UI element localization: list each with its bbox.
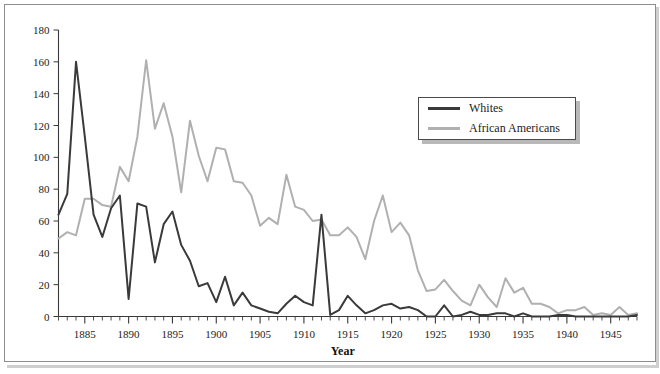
y-tick-label: 120 — [33, 120, 50, 132]
x-tick-label: 1915 — [337, 328, 360, 340]
x-tick-label: 1920 — [381, 328, 404, 340]
x-tick-label: 1930 — [468, 328, 491, 340]
lynching-statistics-line-chart: 0204060801001201401601801885189018951900… — [0, 0, 660, 374]
y-tick-label: 60 — [39, 215, 51, 227]
y-tick-label: 80 — [39, 183, 51, 195]
legend-item-whites: Whites — [419, 98, 575, 118]
y-tick-label: 180 — [33, 24, 50, 36]
y-tick-label: 40 — [39, 247, 51, 259]
x-tick-label: 1935 — [512, 328, 535, 340]
y-tick-label: 0 — [44, 311, 50, 323]
legend-swatch-whites — [428, 107, 460, 110]
x-tick-label: 1890 — [118, 328, 141, 340]
x-tick-label: 1900 — [205, 328, 228, 340]
x-tick-label: 1940 — [556, 328, 579, 340]
legend-swatch-african-americans — [428, 127, 460, 130]
legend-label-african-americans: African Americans — [469, 121, 560, 136]
x-tick-label: 1925 — [424, 328, 447, 340]
legend-item-african-americans: African Americans — [419, 118, 575, 138]
plot-area: 0204060801001201401601801885189018951900… — [0, 0, 660, 374]
y-tick-label: 160 — [33, 56, 50, 68]
y-tick-label: 20 — [39, 279, 51, 291]
y-tick-label: 140 — [33, 88, 50, 100]
x-tick-label: 1895 — [161, 328, 184, 340]
x-tick-label: 1945 — [600, 328, 623, 340]
y-tick-label: 100 — [33, 151, 50, 163]
x-axis-title: Year — [331, 344, 356, 358]
legend-label-whites: Whites — [469, 101, 503, 116]
chart-legend: Whites African Americans — [418, 97, 576, 140]
x-tick-label: 1905 — [249, 328, 272, 340]
x-tick-label: 1885 — [74, 328, 97, 340]
x-tick-label: 1910 — [293, 328, 316, 340]
